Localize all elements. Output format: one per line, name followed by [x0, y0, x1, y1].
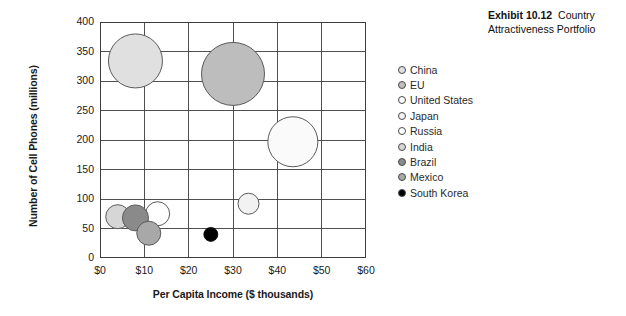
legend-swatch-icon	[398, 81, 406, 89]
x-tick-label: $60	[343, 265, 389, 276]
y-tick-label: 400	[50, 16, 94, 27]
legend-swatch-icon	[398, 143, 406, 151]
legend-item-russia[interactable]: Russia	[398, 124, 548, 139]
chart-bubbles	[100, 22, 366, 258]
bubble-china	[108, 34, 162, 88]
legend-swatch-icon	[398, 127, 406, 135]
legend-item-label: India	[410, 141, 433, 153]
legend-item-china[interactable]: China	[398, 62, 548, 77]
legend-item-eu[interactable]: EU	[398, 77, 548, 92]
legend-item-label: China	[410, 64, 437, 76]
y-tick-label: 350	[50, 46, 94, 57]
legend-item-south-korea[interactable]: South Korea	[398, 185, 548, 200]
x-axis-title: Per Capita Income ($ thousands)	[100, 288, 366, 300]
legend-item-label: Japan	[410, 110, 439, 122]
bubble-united-states	[268, 117, 318, 167]
legend-item-label: Russia	[410, 125, 442, 137]
y-tick-label: 250	[50, 105, 94, 116]
legend-item-label: United States	[410, 94, 473, 106]
legend-swatch-icon	[398, 96, 406, 104]
legend-swatch-icon	[398, 112, 406, 120]
bubble-mexico	[137, 221, 161, 245]
exhibit-figure: Number of Cell Phones (millions) 0501001…	[0, 0, 626, 316]
exhibit-number: Exhibit 10.12	[488, 9, 552, 21]
x-tick-label: $30	[210, 265, 256, 276]
legend-swatch-icon	[398, 158, 406, 166]
legend-swatch-icon	[398, 173, 406, 181]
legend-item-india[interactable]: India	[398, 139, 548, 154]
legend-item-brazil[interactable]: Brazil	[398, 154, 548, 169]
legend-item-label: Mexico	[410, 171, 443, 183]
legend-item-mexico[interactable]: Mexico	[398, 170, 548, 185]
legend-item-label: EU	[410, 79, 425, 91]
x-tick-label: $10	[121, 265, 167, 276]
x-tick-label: $20	[166, 265, 212, 276]
legend-swatch-icon	[398, 189, 406, 197]
y-tick-label: 200	[50, 134, 94, 145]
exhibit-caption: Exhibit 10.12 Country Attractiveness Por…	[488, 8, 624, 36]
y-tick-label: 0	[50, 252, 94, 263]
legend-item-label: South Korea	[410, 187, 468, 199]
x-tick-label: $40	[254, 265, 300, 276]
legend-swatch-icon	[398, 66, 406, 74]
plot-area	[100, 22, 366, 258]
legend-item-label: Brazil	[410, 156, 436, 168]
x-tick-label: $50	[299, 265, 345, 276]
bubble-south-korea	[204, 227, 218, 241]
x-tick-label: $0	[77, 265, 123, 276]
bubble-eu	[202, 42, 265, 105]
legend-item-united-states[interactable]: United States	[398, 93, 548, 108]
y-tick-label: 100	[50, 193, 94, 204]
y-tick-label: 300	[50, 75, 94, 86]
chart-legend: ChinaEUUnited StatesJapanRussiaIndiaBraz…	[398, 62, 548, 201]
y-axis-title: Number of Cell Phones (millions)	[27, 31, 39, 261]
bubble-japan	[238, 193, 259, 214]
y-tick-label: 50	[50, 223, 94, 234]
legend-item-japan[interactable]: Japan	[398, 108, 548, 123]
y-tick-label: 150	[50, 164, 94, 175]
